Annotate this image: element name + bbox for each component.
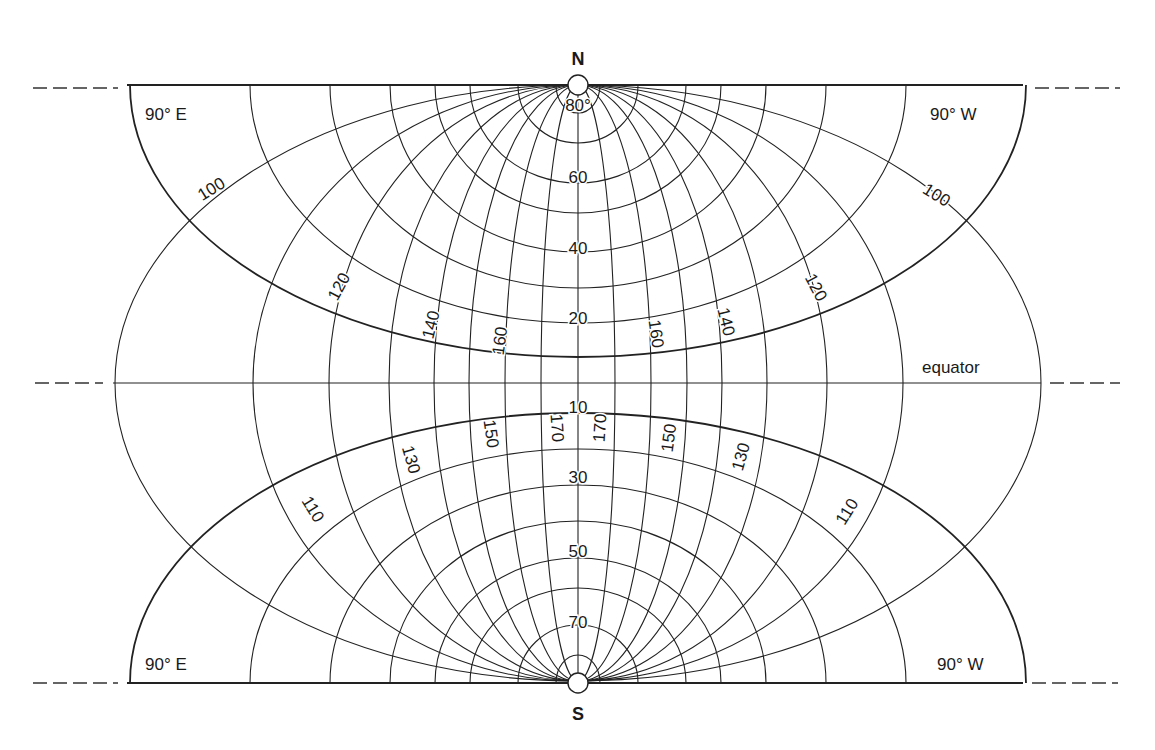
- parallel-label-upper: 60: [569, 168, 588, 187]
- south-label: S: [572, 704, 584, 724]
- parallel-label-lower: 10: [569, 398, 588, 417]
- meridian-label-upper: 140: [418, 309, 443, 341]
- graticule-diagram: N S equator 90° E 90° W 90° E 90° W 80°6…: [0, 0, 1155, 750]
- parallel-label-lower: 30: [569, 468, 588, 487]
- meridian-label-lower: 150: [480, 418, 503, 449]
- meridian-label-upper: 120: [801, 271, 831, 305]
- south-pole-marker: [568, 673, 588, 693]
- corner-label-bottom-left: 90° E: [145, 655, 187, 674]
- corner-label-top-right: 90° W: [930, 105, 976, 124]
- corner-label-bottom-right: 90° W: [937, 655, 983, 674]
- labels: N S equator 90° E 90° W 90° E 90° W: [145, 49, 983, 724]
- meridian-label-lower: 170: [547, 413, 568, 443]
- meridian-label-upper: 120: [324, 270, 354, 304]
- meridian-label-upper: 140: [713, 306, 738, 338]
- parallel-label-upper: 20: [569, 309, 588, 328]
- meridian-label-lower: 170: [590, 413, 611, 443]
- equator-label: equator: [922, 358, 980, 377]
- meridian-label-upper: 100: [194, 174, 228, 205]
- north-label: N: [572, 49, 585, 69]
- north-pole-marker: [568, 75, 588, 95]
- parallel-label-lower: 70: [569, 613, 588, 632]
- meridian-label-upper: 160: [489, 325, 512, 356]
- graticule-value-labels: 80°6040201030507010012014016016014012010…: [194, 96, 953, 632]
- meridian-label-lower: 110: [832, 495, 862, 528]
- meridian-label-lower: 150: [658, 422, 681, 453]
- meridian-label-lower: 110: [298, 493, 328, 526]
- parallel-label-lower: 50: [569, 542, 588, 561]
- meridian-label-upper: 100: [919, 180, 953, 211]
- meridian-label-upper: 160: [645, 318, 668, 349]
- parallel-label-upper: 80°: [565, 96, 591, 115]
- meridian-label-lower: 130: [398, 443, 424, 476]
- corner-label-top-left: 90° E: [145, 105, 187, 124]
- parallel-label-upper: 40: [569, 239, 588, 258]
- meridian-label-lower: 130: [728, 440, 754, 473]
